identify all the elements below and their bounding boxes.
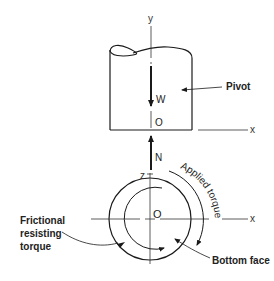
- frictional-torque-label: Frictional resisting torque: [20, 214, 65, 253]
- bottom-face-label: Bottom face: [212, 256, 270, 266]
- frictional-line-2: resisting: [20, 227, 65, 240]
- pivot-diagram: y x O W Pivot N z O x Applied torque Fri…: [0, 0, 274, 281]
- svg-text:Applied torque: Applied torque: [179, 160, 224, 219]
- applied-torque-text: Applied torque: [179, 160, 224, 219]
- frictional-line-1: Frictional: [20, 214, 65, 227]
- frictional-line-3: torque: [20, 240, 65, 253]
